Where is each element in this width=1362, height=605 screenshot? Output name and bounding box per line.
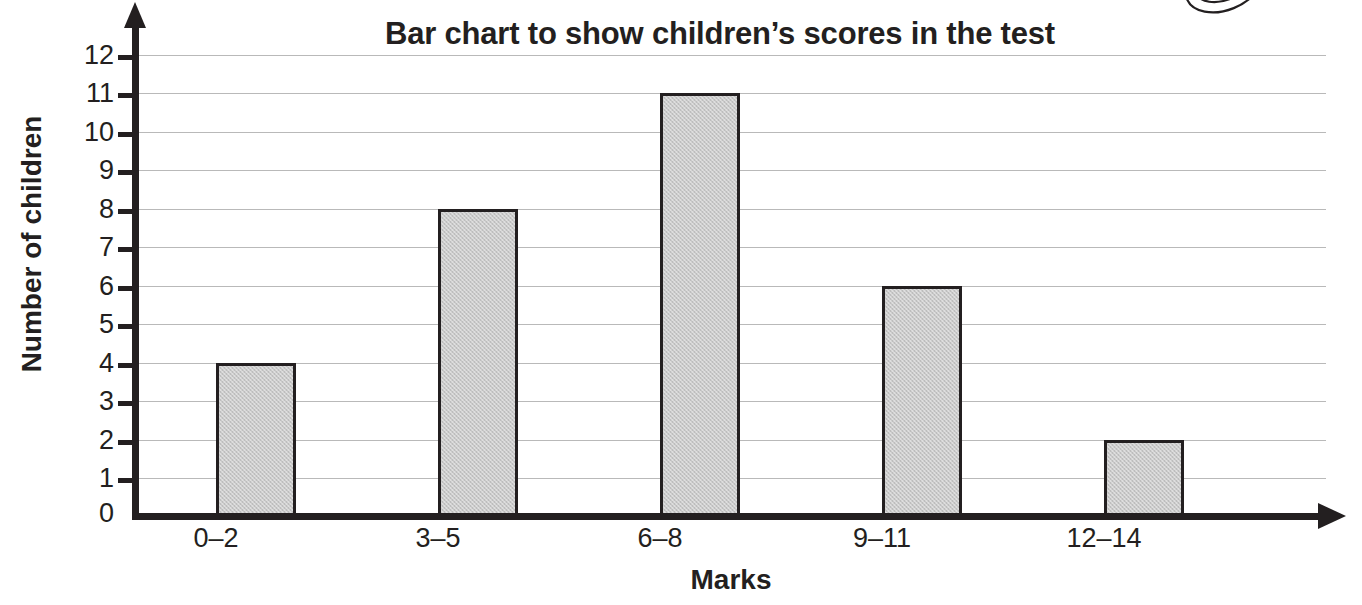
gridline-12: [136, 55, 1326, 56]
x-tick-label-3-5: 3–5: [348, 523, 528, 554]
y-tick-label-8: 8: [68, 194, 114, 225]
y-tick-label-7: 7: [68, 232, 114, 263]
x-axis-title: Marks: [136, 564, 1326, 596]
x-tick-label-6-8: 6–8: [570, 523, 750, 554]
y-axis-tick-labels: 12 11 10 9 8 7 6 5 4 3 2 1 0: [58, 0, 114, 605]
bar-9-11[interactable]: [882, 286, 962, 516]
y-tick-label-12: 12: [68, 40, 114, 71]
y-tick-label-4: 4: [68, 348, 114, 379]
y-tick-label-0: 0: [68, 498, 114, 529]
y-tick-label-5: 5: [68, 309, 114, 340]
x-axis-arrow-icon: [1318, 503, 1346, 529]
y-axis-arrow-icon: [124, 2, 146, 28]
bar-6-8[interactable]: [660, 93, 740, 516]
y-axis-title: Number of children: [16, 94, 48, 394]
x-axis-line: [132, 513, 1327, 520]
y-tick-label-6: 6: [68, 271, 114, 302]
chart-page: Bar chart to show children’s scores in t…: [0, 0, 1362, 605]
bar-0-2[interactable]: [216, 363, 296, 516]
bar-3-5[interactable]: [438, 209, 518, 516]
y-tick-label-9: 9: [68, 155, 114, 186]
y-tick-label-3: 3: [68, 386, 114, 417]
y-axis-line: [132, 18, 139, 520]
y-tick-label-11: 11: [68, 78, 114, 109]
y-tick-label-1: 1: [68, 463, 114, 494]
x-tick-label-0-2: 0–2: [126, 523, 306, 554]
bar-12-14[interactable]: [1104, 440, 1184, 516]
y-tick-label-10: 10: [68, 117, 114, 148]
x-tick-label-9-11: 9–11: [792, 523, 972, 554]
y-tick-label-2: 2: [68, 425, 114, 456]
x-tick-label-12-14: 12–14: [1014, 523, 1194, 554]
plot-area: [136, 20, 1326, 516]
